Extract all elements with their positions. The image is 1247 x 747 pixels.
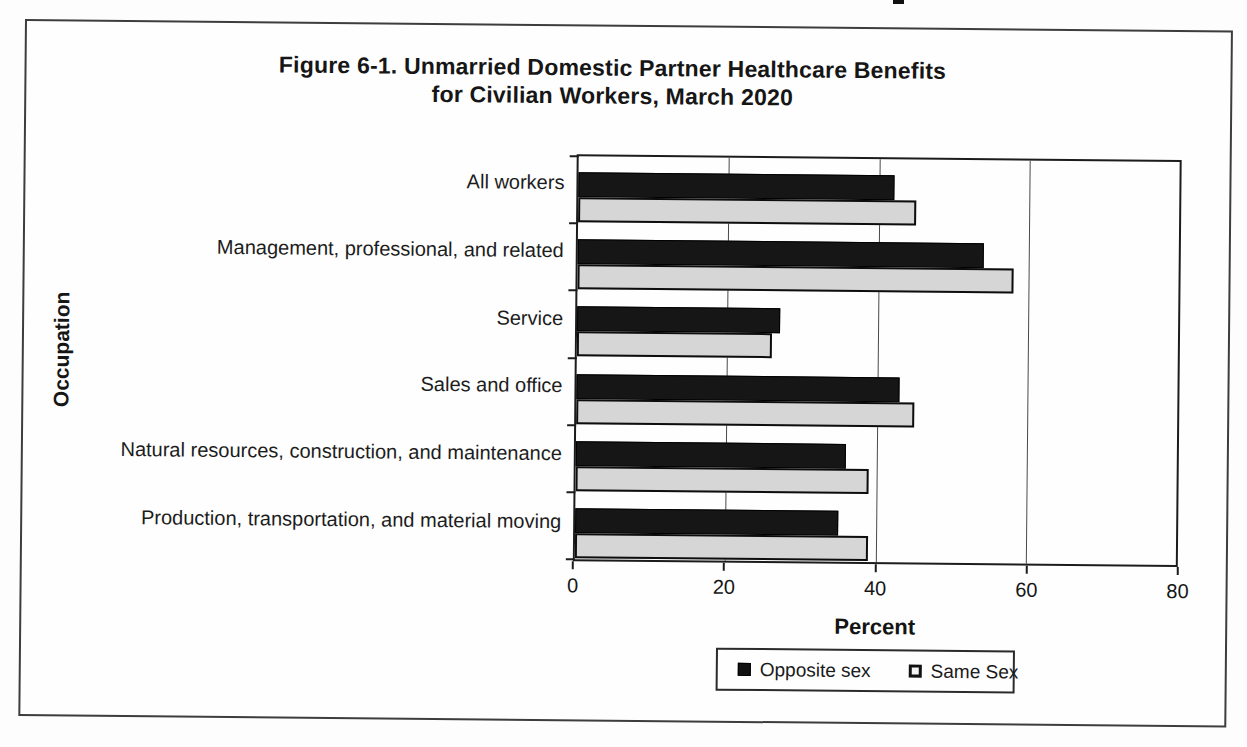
- bar-same-sex: [576, 399, 914, 427]
- scan-skew-wrapper: Figure 6-1. Unmarried Domestic Partner H…: [0, 0, 1247, 747]
- y-axis-tick: [566, 558, 575, 560]
- x-axis-tick: [572, 561, 574, 569]
- legend-item: Opposite sex: [738, 658, 871, 681]
- bar-opposite-sex: [576, 374, 899, 402]
- y-axis-tick: [568, 357, 577, 359]
- y-axis-tick: [570, 155, 579, 157]
- x-axis-tick: [1177, 567, 1179, 575]
- bar-opposite-sex: [575, 508, 838, 536]
- bar-same-sex: [577, 264, 1013, 293]
- category-label: Service: [0, 302, 563, 328]
- x-tick-label: 80: [1166, 580, 1188, 603]
- x-tick-label: 40: [864, 577, 886, 600]
- x-axis: 020406080: [572, 561, 1177, 613]
- category-label: Natural resources, construction, and mai…: [0, 438, 562, 464]
- x-tick-label: 20: [713, 576, 735, 599]
- bar-opposite-sex: [578, 239, 984, 268]
- y-axis-tick: [566, 491, 575, 493]
- bar-same-sex: [577, 332, 773, 359]
- y-axis-tick: [568, 290, 577, 292]
- legend: Opposite sexSame Sex: [716, 648, 1015, 694]
- bar-opposite-sex: [577, 307, 780, 334]
- category-label: All workers: [0, 167, 565, 193]
- bar-group: [576, 358, 1178, 431]
- bar-group: [575, 425, 1177, 498]
- legend-label: Same Sex: [931, 660, 1019, 683]
- legend-swatch-same-sex: [909, 665, 922, 678]
- category-label: Production, transportation, and material…: [0, 506, 561, 532]
- x-tick-label: 60: [1015, 579, 1037, 602]
- y-axis-tick: [567, 424, 576, 426]
- bar-same-sex: [578, 197, 916, 225]
- category-labels: All workersManagement, professional, and…: [0, 149, 565, 561]
- legend-item: Same Sex: [909, 660, 1019, 683]
- category-label: Sales and office: [0, 370, 563, 396]
- legend-swatch-opposite-sex: [738, 663, 751, 676]
- y-axis-tick: [569, 222, 578, 224]
- bar-opposite-sex: [578, 172, 894, 200]
- bar-opposite-sex: [576, 441, 847, 469]
- category-label: Management, professional, and related: [0, 235, 564, 261]
- x-axis-tick: [723, 563, 725, 571]
- legend-label: Opposite sex: [760, 659, 871, 682]
- bar-group: [578, 156, 1180, 229]
- x-tick-label: 0: [567, 574, 578, 597]
- scanned-document-page: Figure 6-1. Unmarried Domestic Partner H…: [0, 0, 1247, 747]
- bar-group: [577, 291, 1179, 364]
- x-axis-tick: [874, 564, 876, 572]
- plot-area: [573, 154, 1182, 567]
- figure-title: Figure 6-1. Unmarried Domestic Partner H…: [29, 48, 1195, 115]
- x-axis-title: Percent: [572, 611, 1177, 643]
- figure-content: Figure 6-1. Unmarried Domestic Partner H…: [0, 0, 1247, 747]
- bar-same-sex: [575, 466, 868, 494]
- x-axis-tick: [1025, 566, 1027, 574]
- bar-group: [577, 223, 1179, 296]
- bar-group: [575, 492, 1177, 565]
- bar-same-sex: [575, 533, 868, 561]
